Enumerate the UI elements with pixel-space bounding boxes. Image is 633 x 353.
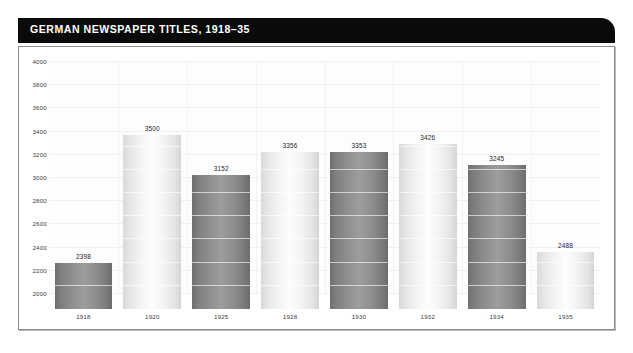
y-axis-tick-label: 2800: [7, 197, 47, 204]
plot-wrapper: 2000220024002600280030003200340036003800…: [49, 61, 600, 309]
bar-gridline: [123, 285, 181, 286]
x-axis-tick-label: 1930: [325, 313, 394, 320]
chart-panel: 2000220024002600280030003200340036003800…: [18, 46, 615, 330]
bar[interactable]: [261, 152, 319, 309]
bar-gridline: [123, 262, 181, 263]
bar-gridline: [123, 169, 181, 170]
bar-value-label: 3426: [393, 134, 462, 141]
x-axis-tick-label: 1925: [187, 313, 256, 320]
bar-gridline: [330, 238, 388, 239]
bar-gridline: [192, 262, 250, 263]
bar-group: 24881935: [531, 77, 600, 309]
bar-group: 33531930: [325, 77, 394, 309]
bar-gridline: [123, 238, 181, 239]
bar-gridline: [330, 215, 388, 216]
bar-gridline: [192, 192, 250, 193]
bar-gridline: [399, 146, 457, 147]
bar-group: 34261932: [393, 77, 462, 309]
y-axis-tick-label: 4000: [7, 58, 47, 65]
x-axis-tick-label: 1935: [531, 313, 600, 320]
bar-value-label: 3500: [118, 125, 187, 132]
bar-gridline: [468, 192, 526, 193]
bar-gridline: [468, 169, 526, 170]
bar[interactable]: [330, 152, 388, 309]
y-axis-tick-label: 3200: [7, 150, 47, 157]
bar-group: 31521925: [187, 77, 256, 309]
bar-value-label: 3356: [256, 142, 325, 149]
bar[interactable]: [399, 144, 457, 309]
bar-gridline: [261, 215, 319, 216]
bar-gridline: [399, 215, 457, 216]
page-title: GERMAN NEWSPAPER TITLES, 1918–35: [30, 23, 250, 35]
bar-gridline: [261, 238, 319, 239]
bar[interactable]: [55, 263, 113, 309]
chart-figure: GERMAN NEWSPAPER TITLES, 1918–35 2000220…: [18, 18, 615, 330]
bar-gridline: [330, 262, 388, 263]
bar-gridline: [537, 285, 595, 286]
x-axis-tick-label: 1918: [49, 313, 118, 320]
bar-gridline: [330, 169, 388, 170]
bar[interactable]: [123, 135, 181, 309]
bar-gridline: [55, 285, 113, 286]
bar-gridline: [468, 262, 526, 263]
y-axis-tick-label: 2600: [7, 220, 47, 227]
x-axis-tick-label: 1920: [118, 313, 187, 320]
bar-group: 35001920: [118, 77, 187, 309]
bar-gridline: [468, 238, 526, 239]
bar-gridline: [123, 146, 181, 147]
y-axis-tick-label: 3000: [7, 174, 47, 181]
bar[interactable]: [192, 175, 250, 309]
y-axis-tick-label: 2200: [7, 266, 47, 273]
bar-gridline: [123, 215, 181, 216]
bar-gridline: [468, 215, 526, 216]
bar-gridline: [192, 215, 250, 216]
bar-group: 23981918: [49, 77, 118, 309]
bar-group: 32451934: [462, 77, 531, 309]
bar[interactable]: [468, 165, 526, 309]
bar-gridline: [330, 285, 388, 286]
x-axis-tick-label: 1928: [256, 313, 325, 320]
bar-gridline: [192, 238, 250, 239]
bar-gridline: [261, 192, 319, 193]
bar-value-label: 3245: [462, 155, 531, 162]
y-axis-tick-label: 3600: [7, 104, 47, 111]
bar-value-label: 3152: [187, 165, 256, 172]
bar-gridline: [468, 285, 526, 286]
bar-gridline: [330, 192, 388, 193]
x-axis-tick-label: 1932: [393, 313, 462, 320]
bar-group: 33561928: [256, 77, 325, 309]
y-axis-tick-label: 2000: [7, 290, 47, 297]
bar-value-label: 2488: [531, 242, 600, 249]
bar-gridline: [399, 285, 457, 286]
bar-gridline: [399, 262, 457, 263]
bar-gridline: [123, 192, 181, 193]
bar-gridline: [399, 192, 457, 193]
bar-gridline: [261, 262, 319, 263]
y-axis-tick-label: 2400: [7, 243, 47, 250]
x-axis-tick-label: 1934: [462, 313, 531, 320]
bar-value-label: 3353: [325, 142, 394, 149]
chart-title-bar: GERMAN NEWSPAPER TITLES, 1918–35: [18, 18, 615, 43]
bar-value-label: 2398: [49, 253, 118, 260]
y-axis-tick-label: 3800: [7, 81, 47, 88]
y-axis-tick-label: 3400: [7, 127, 47, 134]
bar-gridline: [399, 238, 457, 239]
bar-gridline: [261, 285, 319, 286]
bar[interactable]: [537, 252, 595, 309]
bar-gridline: [192, 285, 250, 286]
bar-gridline: [399, 169, 457, 170]
bar-gridline: [537, 262, 595, 263]
bar-gridline: [261, 169, 319, 170]
